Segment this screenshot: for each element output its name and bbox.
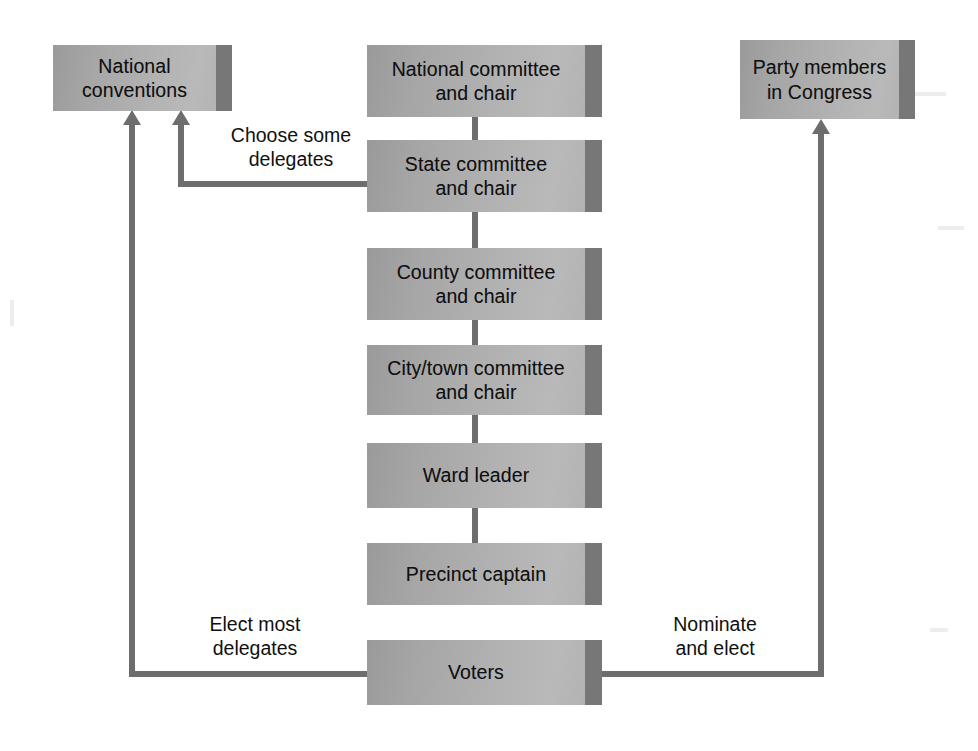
node-ward-leader[interactable]: Ward leader	[367, 443, 602, 508]
scan-artifact	[938, 226, 964, 230]
node-county-committee[interactable]: County committee and chair	[367, 248, 602, 320]
box-shadow-strip	[585, 543, 602, 605]
node-ward-leader-label: Ward leader	[417, 463, 536, 487]
connector-elect-delegates-vertical	[129, 125, 135, 674]
node-city-town-committee[interactable]: City/town committee and chair	[367, 345, 602, 415]
edge-label-choose-some-delegates: Choose some delegates	[196, 123, 386, 172]
box-shadow-strip	[585, 345, 602, 415]
box-shadow-strip	[216, 45, 232, 111]
node-precinct-captain[interactable]: Precinct captain	[367, 543, 602, 605]
node-state-committee-label: State committee and chair	[399, 152, 553, 200]
box-shadow-strip	[585, 640, 602, 705]
arrowhead-choose-delegates	[172, 110, 190, 125]
arrowhead-nominate-elect	[812, 119, 830, 134]
node-precinct-captain-label: Precinct captain	[400, 562, 552, 586]
box-shadow-strip	[585, 45, 602, 117]
node-state-committee[interactable]: State committee and chair	[367, 140, 602, 212]
connector-choose-delegates-horizontal	[178, 181, 370, 187]
connector-county-to-citytown	[472, 320, 478, 345]
node-city-town-committee-label: City/town committee and chair	[381, 356, 570, 404]
connector-elect-delegates-horizontal	[129, 671, 371, 677]
scan-artifact	[10, 300, 14, 326]
connector-citytown-to-ward	[472, 415, 478, 443]
node-voters[interactable]: Voters	[367, 640, 602, 705]
connector-nominate-elect-vertical	[818, 134, 824, 677]
node-party-members-congress[interactable]: Party members in Congress	[740, 40, 915, 119]
box-shadow-strip	[585, 443, 602, 508]
edge-label-nominate-and-elect: Nominate and elect	[620, 612, 810, 661]
connector-national-to-state	[472, 117, 478, 140]
node-party-members-congress-label: Party members in Congress	[747, 55, 893, 103]
box-shadow-strip	[899, 40, 915, 119]
box-shadow-strip	[585, 140, 602, 212]
box-shadow-strip	[585, 248, 602, 320]
node-national-conventions-label: National conventions	[76, 54, 193, 102]
connector-state-to-county	[472, 212, 478, 248]
node-national-committee[interactable]: National committee and chair	[367, 45, 602, 117]
node-national-conventions[interactable]: National conventions	[53, 45, 232, 111]
arrowhead-elect-delegates	[123, 110, 141, 125]
node-county-committee-label: County committee and chair	[391, 260, 562, 308]
node-voters-label: Voters	[442, 660, 510, 684]
diagram-canvas: National conventions National committee …	[0, 0, 978, 751]
node-national-committee-label: National committee and chair	[386, 57, 567, 105]
scan-artifact	[930, 628, 948, 632]
connector-nominate-elect-horizontal	[602, 671, 824, 677]
connector-ward-to-precinct	[472, 508, 478, 543]
connector-choose-delegates-vertical	[178, 125, 184, 185]
edge-label-elect-most-delegates: Elect most delegates	[160, 612, 350, 661]
